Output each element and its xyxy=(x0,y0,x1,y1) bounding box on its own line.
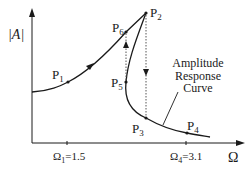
x-axis-label: Ω xyxy=(228,150,238,165)
annotation-leader-line xyxy=(163,92,178,125)
point-p2-dot xyxy=(144,11,147,14)
point-p6-dot xyxy=(124,30,127,33)
jump-down-arrow-icon xyxy=(143,69,149,76)
x-axis xyxy=(32,140,245,146)
svg-text:Curve: Curve xyxy=(183,81,212,95)
upper-branch-curve xyxy=(32,13,146,92)
point-p3-label: P3 xyxy=(132,121,144,138)
y-axis-label: |A| xyxy=(8,27,24,42)
tick-label-omega4: Ω4=3.1 xyxy=(170,150,202,165)
point-p1-label: P1 xyxy=(52,67,64,84)
point-p6-label: P6 xyxy=(112,20,124,37)
lower-branch-curve xyxy=(146,118,210,137)
x-axis-arrow-icon xyxy=(236,140,245,146)
point-p5-dot xyxy=(124,80,127,83)
point-p3-dot xyxy=(144,116,147,119)
y-axis xyxy=(29,8,35,143)
y-axis-arrow-icon xyxy=(29,8,35,17)
amplitude-response-annotation: Amplitude Response Curve xyxy=(172,56,223,95)
amplitude-response-diagram: P1 P2 P3 P4 P5 P6 |A| Ω Ω1=1.5 Ω4=3.1 Am… xyxy=(0,0,250,172)
point-p1-dot xyxy=(66,80,69,83)
point-p5-label: P5 xyxy=(111,75,123,92)
point-p2-label: P2 xyxy=(150,5,162,22)
tick-label-omega1: Ω1=1.5 xyxy=(53,150,86,165)
point-p4-label: P4 xyxy=(187,118,199,135)
svg-text:Amplitude: Amplitude xyxy=(172,56,223,70)
jump-up-arrow-icon xyxy=(123,41,129,48)
